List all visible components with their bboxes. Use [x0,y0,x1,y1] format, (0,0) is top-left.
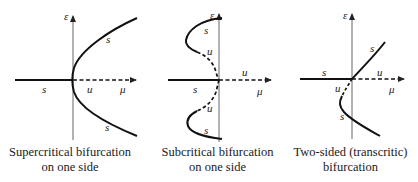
caption-line-2: bifurcation [283,160,418,175]
label-s-lower: s [105,121,109,133]
lower-stable-branch [340,96,380,136]
caption-line-1: Subcritical bifurcation [150,145,285,160]
lower-unstable-branch [342,79,352,96]
caption-supercritical: Supercritical bifurcation on one side [0,145,140,175]
label-u-right: u [377,66,383,78]
mu-label: μ [256,85,263,97]
label-s-lower: s [204,124,208,136]
label-s-upper: s [204,24,208,36]
epsilon-label: ε [64,10,69,22]
panel-transcritical: ε μ s u s u s [300,9,404,139]
caption-line-2: on one side [150,160,285,175]
label-u-upper: u [207,45,213,57]
panel-supercritical: ε μ s u s s [15,10,137,140]
label-u-right: u [242,66,248,78]
panel-subcritical: ε μ s u s u u s [168,9,271,142]
label-s-upper: s [370,42,374,54]
epsilon-label: ε [210,9,215,21]
label-s-left: s [193,83,197,95]
caption-line-1: Two-sided (transcritic) [283,145,418,160]
caption-transcritical: Two-sided (transcritic) bifurcation [283,145,418,175]
caption-line-1: Supercritical bifurcation [0,145,140,160]
epsilon-label: ε [343,9,348,21]
label-u-lower: u [207,102,213,114]
caption-subcritical: Subcritical bifurcation on one side [150,145,285,175]
label-s-left: s [322,66,326,78]
mu-label: μ [388,83,395,95]
label-s-lower: s [340,110,344,122]
stable-parabola [73,18,138,136]
label-s-upper: s [106,33,110,45]
label-u-lower: u [335,82,341,94]
caption-line-2: on one side [0,160,140,175]
label-u-right: u [87,83,93,95]
label-s-left: s [42,83,46,95]
mu-label: μ [119,83,126,95]
